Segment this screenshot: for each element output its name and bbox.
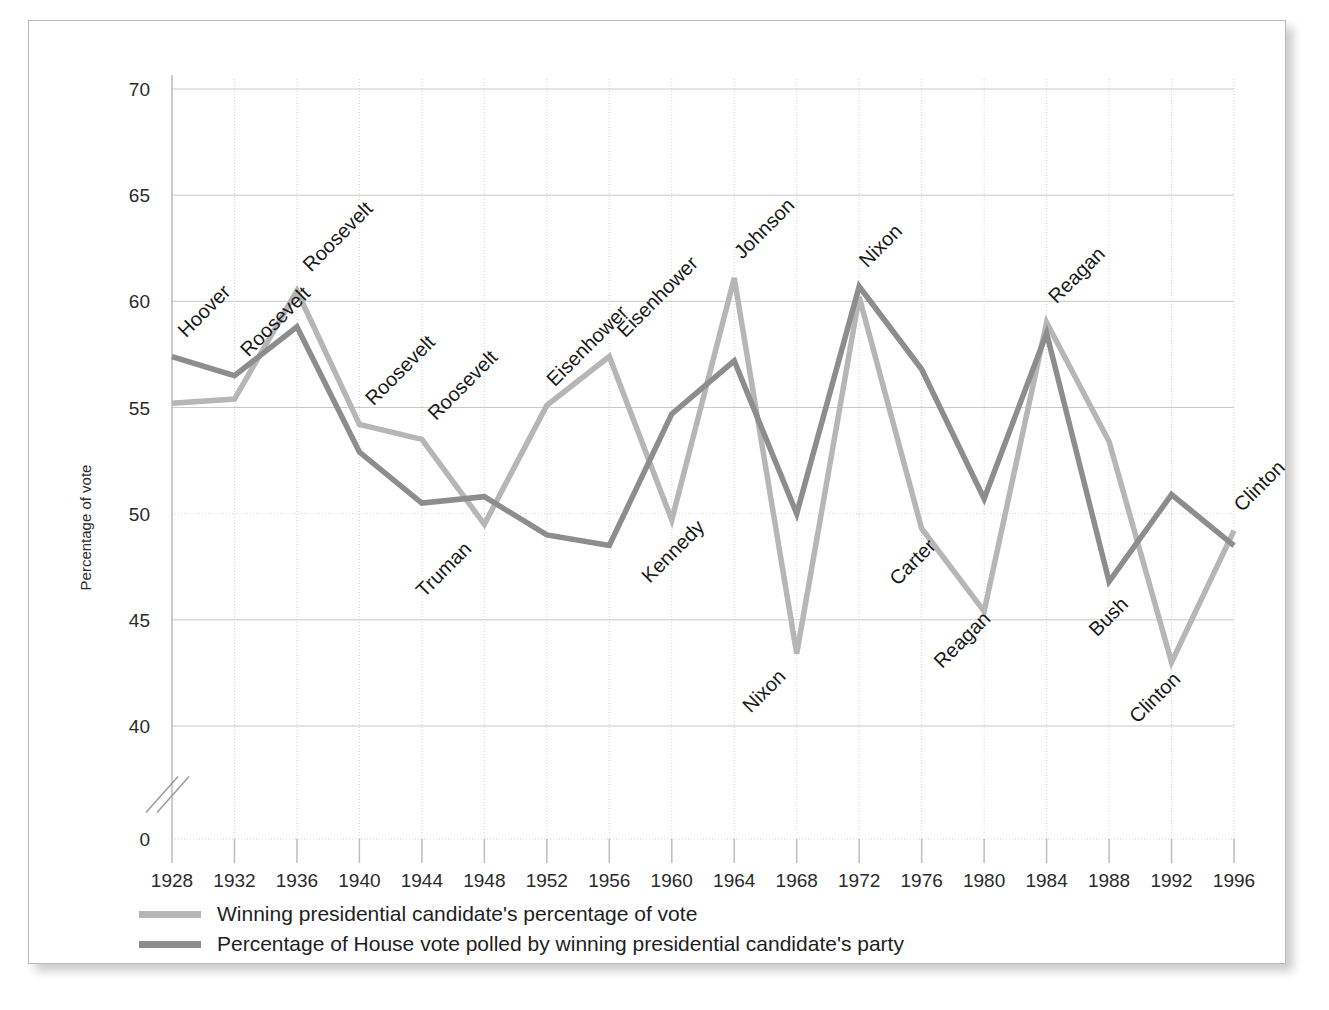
- legend-label-house-vote: Percentage of House vote polled by winni…: [217, 932, 904, 956]
- x-tick-label: 1936: [276, 870, 318, 891]
- x-tick-label: 1932: [213, 870, 255, 891]
- x-tick-label: 1972: [838, 870, 880, 891]
- legend-label-winning-candidate: Winning presidential candidate's percent…: [217, 902, 697, 926]
- point-annotation-label: Truman: [412, 537, 476, 601]
- series-line-house-vote: [172, 286, 1234, 581]
- x-tick-label: 1964: [713, 870, 756, 891]
- y-tick-label: 40: [129, 716, 150, 737]
- x-tick-label: 1976: [901, 870, 943, 891]
- point-annotation-label: Reagan: [1044, 242, 1109, 307]
- x-tick-label: 1948: [463, 870, 505, 891]
- x-tick-label: 1944: [401, 870, 444, 891]
- point-annotation-label: Carter: [885, 534, 940, 589]
- y-tick-label: 70: [129, 79, 150, 100]
- chart-legend: Winning presidential candidate's percent…: [139, 899, 1239, 959]
- legend-swatch-house-vote: [139, 941, 201, 948]
- x-tick-label: 1960: [651, 870, 693, 891]
- y-tick-label: 45: [129, 610, 150, 631]
- point-annotation-label: Nixon: [738, 665, 790, 717]
- plot-area: 0404550556065701928193219361940194419481…: [29, 21, 1287, 965]
- line-chart: 0404550556065701928193219361940194419481…: [29, 21, 1287, 965]
- x-tick-label: 1988: [1088, 870, 1130, 891]
- y-tick-label: 0: [139, 829, 150, 850]
- legend-item-house-vote: Percentage of House vote polled by winni…: [139, 929, 1239, 959]
- point-annotation-label: Clinton: [1229, 456, 1287, 516]
- point-annotation-label: Johnson: [730, 194, 799, 263]
- y-axis-title: Percentage of vote: [77, 465, 94, 591]
- x-tick-label: 1940: [338, 870, 380, 891]
- x-tick-label: 1996: [1213, 870, 1255, 891]
- chart-figure-frame: 0404550556065701928193219361940194419481…: [28, 20, 1286, 964]
- point-annotation-label: Hoover: [173, 280, 234, 341]
- point-annotation-label: Reagan: [929, 607, 994, 672]
- point-annotation-label: Roosevelt: [423, 345, 502, 424]
- x-tick-label: 1952: [526, 870, 568, 891]
- y-tick-label: 50: [129, 504, 150, 525]
- x-tick-label: 1956: [588, 870, 630, 891]
- x-tick-label: 1928: [151, 870, 193, 891]
- legend-item-winning-candidate: Winning presidential candidate's percent…: [139, 899, 1239, 929]
- point-annotation-label: Roosevelt: [236, 282, 315, 361]
- x-tick-label: 1980: [963, 870, 1005, 891]
- point-annotation-label: Clinton: [1125, 668, 1185, 728]
- point-annotation-label: Nixon: [854, 220, 906, 272]
- point-annotation-label: Roosevelt: [361, 331, 440, 410]
- legend-swatch-winning-candidate: [139, 911, 201, 918]
- x-tick-label: 1992: [1150, 870, 1192, 891]
- point-annotation-label: Bush: [1084, 593, 1132, 641]
- x-tick-label: 1968: [776, 870, 818, 891]
- point-annotation-label: Roosevelt: [298, 197, 377, 276]
- point-annotation-label: Eisenhower: [613, 252, 703, 342]
- y-tick-label: 60: [129, 291, 150, 312]
- x-tick-label: 1984: [1025, 870, 1068, 891]
- y-tick-label: 55: [129, 398, 150, 419]
- series-line-winning-candidate: [172, 278, 1234, 662]
- y-tick-label: 65: [129, 185, 150, 206]
